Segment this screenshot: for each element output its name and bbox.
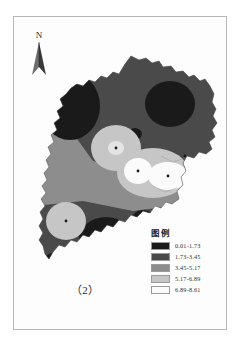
contour-core-east [198, 161, 214, 175]
contour-core-nw [40, 72, 100, 140]
north-label: N [26, 30, 52, 40]
legend-item-label: 0.01-1.73 [175, 242, 201, 249]
legend-swatch [151, 253, 170, 261]
legend-item: 5.17-6.89 [151, 274, 219, 283]
legend-item-label: 5.17-6.89 [175, 275, 201, 282]
figure-caption: （2） [55, 281, 115, 297]
figure-root: N 图例 0.01-1.73 1.73-3.45 3.45-5.17 5.17-… [0, 0, 241, 352]
legend-item-label: 3.45-5.17 [175, 264, 201, 271]
legend-item: 1.73-3.45 [151, 252, 219, 261]
legend-swatch [151, 286, 170, 294]
north-arrow-glyph [29, 41, 49, 77]
legend-item: 6.89-8.61 [151, 285, 219, 294]
legend: 图例 0.01-1.73 1.73-3.45 3.45-5.17 5.17-6.… [151, 226, 219, 296]
contour-core-ne [145, 81, 195, 127]
legend-title: 图例 [151, 226, 219, 238]
legend-item: 3.45-5.17 [151, 263, 219, 272]
legend-swatch [151, 275, 170, 283]
legend-item-label: 6.89-8.61 [175, 286, 201, 293]
legend-item-label: 1.73-3.45 [175, 253, 201, 260]
legend-swatch [151, 242, 170, 250]
north-arrow-icon: N [26, 30, 52, 78]
legend-swatch [151, 264, 170, 272]
contour-core-south [79, 217, 133, 261]
legend-item: 0.01-1.73 [151, 241, 219, 250]
